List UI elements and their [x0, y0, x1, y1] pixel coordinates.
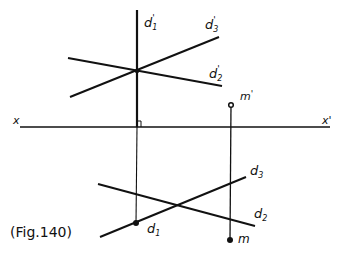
intersection-point-prime: [135, 69, 139, 73]
point-d1: [133, 220, 139, 226]
axis-label-x: x: [12, 114, 20, 127]
line-d1-recall: [136, 127, 137, 223]
line-d3-prime: [70, 37, 219, 97]
line-d2-prime: [68, 58, 222, 86]
descriptive-geometry-figure: x x' d1' d3' d2' m' d3 d2 d1 m (Fig.140): [0, 0, 345, 257]
label-d1-prime: d1': [144, 13, 157, 32]
label-d3: d3: [250, 163, 263, 180]
point-m-prime: [229, 103, 234, 108]
axis-label-x-prime: x': [321, 114, 332, 127]
figure-caption: (Fig.140): [10, 224, 72, 240]
label-d2: d2: [254, 206, 267, 223]
label-m: m: [238, 232, 250, 246]
line-d3: [100, 177, 246, 237]
label-d3-prime: d3': [205, 15, 218, 34]
label-m-prime: m': [240, 89, 253, 103]
label-d2-prime: d2': [209, 64, 222, 83]
label-d1: d1: [147, 221, 160, 238]
point-m: [227, 237, 233, 243]
